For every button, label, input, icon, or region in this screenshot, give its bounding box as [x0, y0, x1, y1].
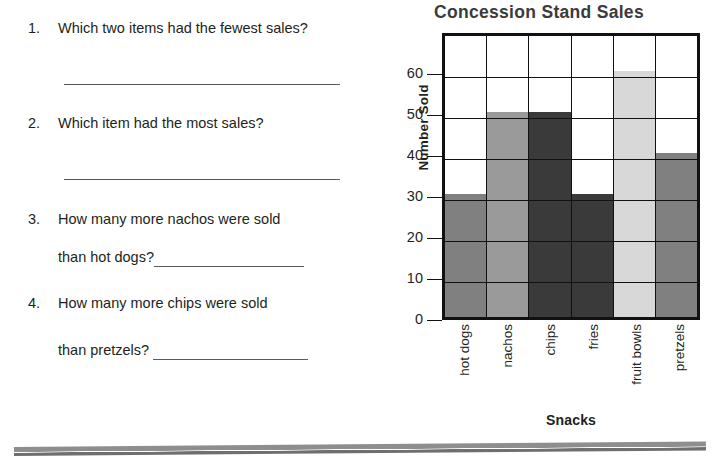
answer-line-4[interactable] [153, 343, 308, 360]
bar-column [572, 36, 614, 317]
answer-line-2[interactable] [64, 179, 340, 180]
x-tick-label: fries [585, 324, 600, 350]
y-tick-mark [427, 115, 442, 116]
chart-title: Concession Stand Sales [366, 2, 712, 23]
x-tick: nachos [485, 322, 528, 414]
question-number-2: 2. [0, 113, 58, 133]
bar-pretzels [656, 153, 697, 317]
question-text-3-line2: than hot dogs? [58, 247, 304, 267]
bar-fruit-bowls [614, 71, 655, 317]
x-tick-label: fruit bowls [628, 324, 643, 385]
question-text-4: How many more chips were sold [58, 293, 268, 313]
y-tick-label: 50 [407, 107, 427, 122]
question-item-3: 3. How many more nachos were sold [0, 209, 385, 229]
bar-fries [572, 194, 613, 317]
question-item-3-continued: than hot dogs? [0, 247, 385, 267]
question-text-3-line2-label: than hot dogs? [58, 249, 154, 265]
question-item-4-continued: than pretzels? [0, 340, 385, 360]
x-axis-label: Snacks [442, 412, 700, 428]
y-tick-label: 0 [415, 312, 427, 327]
question-number-3: 3. [0, 209, 58, 229]
bar-chart: Concession Stand Sales Number Sold 01020… [366, 0, 712, 430]
y-tick-mark [427, 197, 442, 198]
questions-panel: 1. Which two items had the fewest sales?… [0, 0, 385, 420]
bar-hot-dogs [445, 194, 486, 317]
bar-column [529, 36, 571, 317]
x-axis-labels: hot dogsnachoschipsfriesfruit bowlspretz… [442, 322, 700, 414]
plot-area [442, 33, 700, 320]
y-tick-mark [427, 156, 442, 157]
y-tick-mark [427, 74, 442, 75]
bar-column [656, 36, 697, 317]
y-tick-label: 20 [407, 230, 427, 245]
footer-divider [14, 442, 706, 456]
x-tick: chips [528, 322, 571, 414]
question-number-4: 4. [0, 293, 58, 313]
question-text-2: Which item had the most sales? [58, 113, 264, 133]
bar-column [614, 36, 656, 317]
question-item-1: 1. Which two items had the fewest sales? [0, 18, 385, 38]
x-tick: hot dogs [442, 322, 485, 414]
y-tick-mark [427, 320, 442, 321]
y-axis: 0102030405060 [366, 33, 442, 320]
y-tick-mark [427, 279, 442, 280]
x-tick-label: pretzels [671, 324, 686, 371]
bar-nachos [487, 112, 528, 317]
bars-container [445, 36, 697, 317]
question-text-1: Which two items had the fewest sales? [58, 18, 308, 38]
x-tick-label: chips [542, 324, 557, 356]
question-item-2: 2. Which item had the most sales? [0, 113, 385, 133]
y-tick-label: 10 [407, 271, 427, 286]
y-tick-label: 60 [407, 66, 427, 81]
question-item-4: 4. How many more chips were sold [0, 293, 385, 313]
question-number-1: 1. [0, 18, 58, 38]
answer-line-1[interactable] [64, 84, 340, 85]
question-text-4-line2-label: than pretzels? [58, 342, 149, 358]
x-tick-label: hot dogs [456, 324, 471, 376]
bar-column [487, 36, 529, 317]
answer-line-3[interactable] [154, 250, 304, 267]
x-tick-label: nachos [499, 324, 514, 368]
y-tick-label: 40 [407, 148, 427, 163]
y-tick-label: 30 [407, 189, 427, 204]
question-text-4-line2: than pretzels? [58, 340, 308, 360]
x-tick: pretzels [657, 322, 700, 414]
y-tick-mark [427, 238, 442, 239]
bar-chips [529, 112, 570, 317]
worksheet-page: 1. Which two items had the fewest sales?… [0, 0, 712, 471]
question-text-3: How many more nachos were sold [58, 209, 280, 229]
bar-column [445, 36, 487, 317]
x-tick: fries [571, 322, 614, 414]
x-tick: fruit bowls [614, 322, 657, 414]
